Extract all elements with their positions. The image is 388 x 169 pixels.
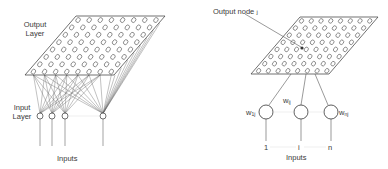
left-inputs-label: Inputs	[57, 154, 77, 163]
input-node	[294, 105, 308, 119]
right-output-layer-grid	[251, 17, 378, 74]
right-inputs-label: Inputs	[286, 153, 306, 162]
weight-label-1j: w1j	[246, 108, 255, 119]
input-layer-label-line1: Input	[8, 103, 36, 112]
weight-subscript: 1j	[251, 111, 255, 117]
input-node	[324, 105, 338, 119]
output-layer-label-line1: Output	[18, 20, 52, 29]
weight-label-nj: wnj	[339, 108, 348, 119]
input-node	[62, 113, 68, 119]
connection-line	[103, 75, 111, 114]
output-node-symbol: j	[256, 9, 257, 15]
input-index-n: n	[328, 143, 332, 152]
input-node	[259, 105, 273, 119]
weight-connection	[301, 74, 306, 105]
connection-line	[65, 75, 67, 114]
output-layer-label: Output Layer	[18, 20, 52, 38]
connection-line	[67, 75, 103, 114]
left-input-layer-nodes	[37, 113, 106, 146]
input-node	[100, 113, 106, 119]
weight-label-ij: wij	[283, 96, 291, 107]
weight-subscript: ij	[288, 99, 290, 105]
input-index-i: i	[298, 143, 300, 152]
output-layer-label-line2: Layer	[18, 29, 52, 38]
output-node-label-text: Output node	[213, 7, 256, 16]
connection-line	[52, 75, 56, 114]
input-node	[49, 113, 55, 119]
connection-line	[103, 75, 115, 114]
connection-line	[78, 75, 103, 114]
output-node-label: Output node j	[213, 7, 258, 17]
input-node	[37, 113, 43, 119]
input-index-1: 1	[264, 143, 268, 152]
weight-subscript: nj	[344, 111, 348, 117]
input-layer-label: Input Layer	[8, 103, 36, 121]
connection-line	[100, 75, 103, 114]
weight-connection	[315, 74, 328, 105]
output-node-highlight	[300, 46, 303, 49]
input-layer-label-line2: Layer	[8, 112, 36, 121]
